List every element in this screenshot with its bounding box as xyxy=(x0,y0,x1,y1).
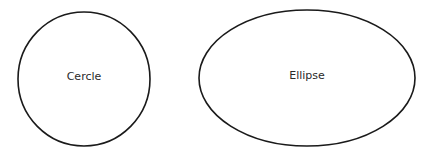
ellipse-shape: Ellipse xyxy=(199,10,415,146)
shapes-diagram: Cercle Ellipse xyxy=(0,0,434,156)
ellipse-label: Ellipse xyxy=(289,69,325,82)
circle-label: Cercle xyxy=(67,70,102,83)
circle-shape: Cercle xyxy=(18,12,150,146)
